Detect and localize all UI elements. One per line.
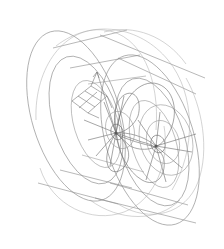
mid-shell-group [35, 47, 203, 215]
sweep-curve-6 [104, 30, 186, 64]
pinch-point-left [114, 131, 117, 134]
inner-shell-rail-bottom [82, 155, 144, 172]
cone-ray-r1 [156, 134, 196, 146]
mid-shell-rail-top [70, 55, 140, 68]
patch-edge-extend-2 [88, 113, 99, 118]
inner-shell-rail-top [88, 76, 146, 84]
longitudinal-sweep-group [36, 29, 204, 216]
outer-shell-rail-bottom2 [95, 198, 196, 223]
wireframe-plot [0, 0, 224, 249]
mid-shell-rail-bottom [60, 170, 132, 188]
right-cone-ring-1 [149, 133, 168, 154]
cone-ray-l1 [84, 120, 116, 133]
pinch-point-right [154, 144, 157, 147]
patch-grid-u2 [85, 91, 101, 101]
patch-grid-v1 [79, 92, 97, 108]
outer-shell-left-ring [8, 19, 144, 213]
outer-shell-rail-top2 [100, 35, 205, 78]
figure-canvas [0, 0, 224, 249]
mid-shell-rail-bottom2 [110, 183, 188, 205]
mid-shell-right-ring [101, 69, 203, 215]
sweep-curve-5 [90, 200, 180, 217]
mid-shell-rail-top2 [118, 58, 196, 94]
sweep-curve-1 [56, 29, 190, 190]
mid-shell-left-ring [35, 47, 137, 193]
cone-ray-r2 [156, 146, 192, 152]
cone-ray-l2 [88, 133, 116, 140]
spindle-neck-lower [116, 134, 156, 147]
cone-ray-l5 [116, 96, 124, 133]
